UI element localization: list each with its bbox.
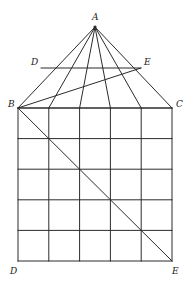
grid-diagonal: [18, 108, 172, 261]
figure-canvas: [0, 0, 191, 282]
label-point-e-lower: E: [172, 267, 179, 276]
vertex-dot-a: [93, 25, 96, 28]
label-point-c: C: [176, 100, 183, 109]
label-point-d-upper: D: [31, 58, 38, 67]
label-point-d-lower: D: [10, 267, 17, 276]
overlay-group: [18, 108, 172, 261]
triangle-group: [18, 27, 172, 108]
label-point-e-upper: E: [144, 58, 151, 67]
geometry-figure: A D E B C D E: [0, 0, 191, 282]
vertex-dots: [93, 25, 96, 28]
label-point-a: A: [92, 13, 99, 22]
label-point-b: B: [8, 100, 15, 109]
